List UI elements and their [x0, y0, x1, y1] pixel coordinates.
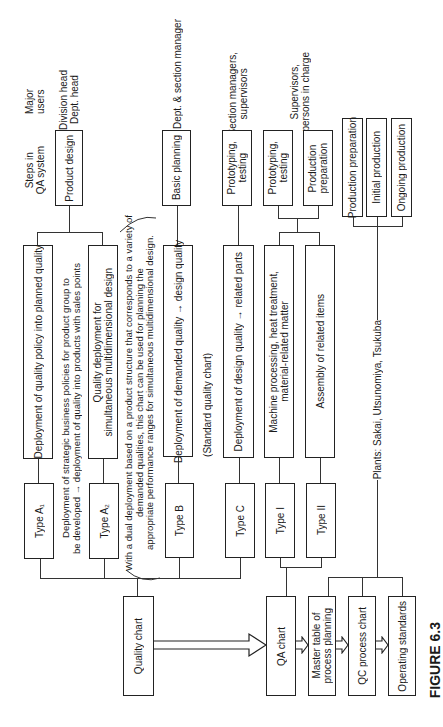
type-a2: Type A₂	[89, 483, 119, 559]
operating-standards: Operating standards	[388, 596, 416, 696]
connector	[328, 577, 329, 596]
connector	[318, 206, 319, 218]
type-ii: Type II	[306, 483, 336, 558]
connector	[280, 558, 281, 567]
note-plants: Plants: Sakai, Utsunomiya, Tsukuba	[369, 320, 385, 480]
connector	[37, 232, 103, 233]
step-product-design: Product design	[55, 130, 83, 206]
step-ongoing-production-label: Ongoing production	[396, 124, 407, 211]
type-a2-label: Type A₂	[99, 504, 110, 538]
header-steps-text: Steps in QA system	[24, 146, 46, 194]
arrow-right-icon	[376, 636, 389, 654]
note-b: (Standard quality chart)	[198, 355, 216, 455]
deployment-ii: Assembly of related items	[305, 245, 335, 458]
type-a1: Type A₁	[24, 483, 54, 559]
connector	[38, 459, 39, 483]
deployment-ii-text: Assembly of related items	[315, 294, 326, 409]
connector	[328, 577, 403, 578]
step-production-preparation-ii: Production preparation	[303, 130, 333, 206]
connector	[402, 217, 403, 226]
connector	[102, 232, 103, 245]
header-users: Major users	[22, 82, 48, 122]
deployment-i-text: Machine processing, heat treatment, mate…	[268, 271, 290, 433]
type-c: Type C	[225, 483, 255, 558]
connector	[69, 206, 70, 232]
quality-chart-label: Quality chart	[133, 618, 144, 674]
step-product-design-label: Product design	[64, 135, 75, 202]
connector	[278, 206, 279, 218]
users-prototyping-text: Section managers, supervisors	[227, 52, 249, 135]
connector	[362, 577, 363, 596]
note-a1-text: Deployment of strategic business policie…	[60, 263, 82, 554]
note-plants-text: Plants: Sakai, Utsunomiya, Tsukuba	[372, 320, 383, 479]
connector	[279, 458, 280, 483]
step-production-preparation-ii-label: Production preparation	[307, 143, 329, 194]
users-production: Supervisors, persons in charge	[283, 58, 317, 126]
arrow-right-icon	[296, 636, 309, 654]
connector	[297, 218, 298, 232]
connector	[37, 232, 38, 245]
connector	[278, 218, 319, 219]
arrow-right-icon	[154, 630, 267, 660]
connector	[104, 559, 105, 578]
connector	[353, 226, 403, 227]
connector	[320, 458, 321, 483]
deployment-a1: Deployment of quality policy into planne…	[23, 245, 53, 459]
step-initial-production: Initial production	[366, 118, 387, 217]
step-ongoing-production: Ongoing production	[391, 118, 412, 217]
connector	[40, 559, 41, 578]
figure-label: FIGURE 6.3	[426, 620, 443, 700]
type-a1-label: Type A₁	[34, 504, 45, 538]
connector	[179, 558, 180, 578]
deployment-a2: Quality deployment for simultaneous mult…	[88, 245, 118, 459]
master-table: Master table of process planning	[308, 596, 336, 696]
operating-standards-label: Operating standards	[397, 601, 408, 692]
users-prototyping: Section managers, supervisors	[222, 60, 254, 128]
step-prototyping-c: Prototyping, testing	[222, 130, 252, 206]
step-basic-planning-label: Basic planning	[171, 135, 182, 200]
type-c-label: Type C	[235, 505, 246, 537]
deployment-a2-text: Quality deployment for simultaneous mult…	[92, 268, 114, 436]
type-i: Type I	[265, 483, 295, 558]
type-ii-label: Type II	[316, 505, 327, 535]
step-prototyping-i: Prototyping, testing	[263, 130, 293, 206]
connector	[353, 217, 354, 226]
qa-chart-label: QA chart	[276, 627, 287, 666]
deployment-i: Machine processing, heat treatment, mate…	[264, 245, 294, 458]
bracket-curve	[118, 212, 160, 234]
step-production-preparation: Production preparation	[342, 118, 363, 217]
arrow-right-icon	[336, 636, 349, 654]
type-i-label: Type I	[275, 507, 286, 534]
step-production-preparation-label: Production preparation	[347, 117, 358, 218]
connector	[279, 232, 319, 233]
users-product-design-text: Division head Dept. head	[58, 70, 80, 130]
bracket-curve	[124, 568, 164, 584]
connector	[239, 458, 240, 483]
connector	[402, 577, 403, 596]
qc-process-chart-label: QC process chart	[357, 607, 368, 685]
note-a2-text: With a dual deployment based on a produc…	[124, 215, 156, 571]
connector	[240, 558, 241, 578]
figure-label-text: FIGURE 6.3	[430, 622, 441, 698]
step-prototyping-c-label: Prototyping, testing	[226, 141, 248, 194]
type-b: Type B	[165, 483, 194, 558]
connector	[238, 206, 239, 245]
deployment-b: Deployment of demanded quality → design …	[163, 245, 193, 457]
master-table-label: Master table of process planning	[311, 608, 333, 684]
users-basic-planning-text: Dept. & section manager	[172, 19, 183, 129]
qc-process-chart: QC process chart	[348, 596, 376, 696]
users-production-text: Supervisors, persons in charge	[289, 52, 311, 132]
header-users-text: Major users	[24, 89, 46, 114]
note-a2: With a dual deployment based on a produc…	[118, 215, 162, 570]
connector	[178, 457, 179, 483]
connector	[319, 232, 320, 245]
step-basic-planning: Basic planning	[162, 130, 191, 206]
qa-chart: QA chart	[266, 596, 296, 696]
note-a1: Deployment of strategic business policie…	[54, 258, 88, 558]
quality-chart: Quality chart	[123, 596, 154, 696]
deployment-b-text: Deployment of demanded quality → design …	[173, 240, 184, 463]
connector	[279, 232, 280, 245]
users-basic-planning: Dept. & section manager	[165, 20, 189, 128]
connector	[321, 558, 322, 567]
step-initial-production-label: Initial production	[371, 131, 382, 204]
